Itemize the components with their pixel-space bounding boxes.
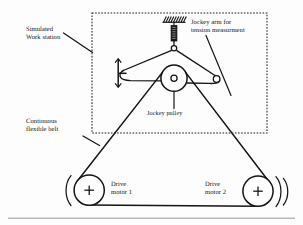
motor-2-rotation-arc — [276, 177, 288, 207]
label-continuous-flexible-belt: Continuous flexible belt — [26, 118, 58, 133]
jockey-pulley — [161, 65, 187, 91]
motor-1-rotation-arc — [66, 176, 71, 206]
belt-drive-diagram: Simulated Work station Jockey arm for te… — [0, 0, 303, 225]
arm-left-stop-bracket — [115, 59, 126, 88]
drive-motor-2-pulley — [243, 176, 273, 206]
label-drive-motor-2: Drive motor 2 — [205, 181, 226, 196]
label-jockey-pulley: Jockey pulley — [147, 110, 182, 117]
leader-line-workstation — [64, 33, 93, 52]
leader-line-belt — [83, 136, 100, 146]
label-simulated-work-station: Simulated Work station — [26, 26, 60, 41]
label-jockey-arm: Jockey arm for tension measurment — [191, 19, 245, 34]
arm-pivot-joint — [171, 46, 176, 51]
hatched-ground-support — [163, 16, 187, 22]
leader-line-jockey-arm — [206, 35, 231, 95]
arm-right-roller — [213, 76, 220, 83]
continuous-flexible-belt — [76, 73, 270, 207]
drive-motor-1-pulley — [74, 175, 104, 205]
spring-load-cell — [171, 22, 177, 45]
label-drive-motor-1: Drive motor 1 — [111, 181, 132, 196]
